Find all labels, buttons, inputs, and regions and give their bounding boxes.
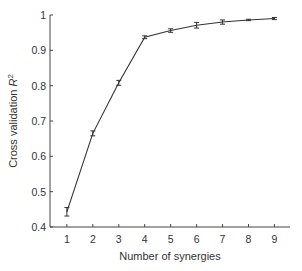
line-chart-plot: 0.40.50.60.70.80.91123456789 Number of s…	[0, 0, 302, 271]
y-tick-label: 0.4	[31, 221, 46, 233]
x-tick-label: 4	[142, 233, 148, 245]
x-tick-label: 8	[246, 233, 252, 245]
x-tick-label: 3	[116, 233, 122, 245]
error-bar	[116, 80, 121, 85]
x-tick-label: 9	[272, 233, 278, 245]
axes: 0.40.50.60.70.80.91123456789	[31, 9, 290, 245]
x-axis-label: Number of synergies	[119, 250, 221, 262]
data-series	[64, 17, 277, 216]
x-tick-label: 5	[168, 233, 174, 245]
y-tick-label: 0.8	[31, 80, 46, 92]
x-tick-label: 7	[220, 233, 226, 245]
chart: 0.40.50.60.70.80.91123456789 Number of s…	[0, 0, 302, 271]
x-tick-label: 6	[194, 233, 200, 245]
y-tick-label: 1	[40, 9, 46, 21]
y-tick-label: 0.7	[31, 115, 46, 127]
y-tick-label: 0.5	[31, 186, 46, 198]
y-tick-label: 0.6	[31, 150, 46, 162]
error-bar	[64, 208, 69, 216]
y-axis-label: Cross validation R2	[6, 74, 19, 168]
error-bar	[90, 131, 95, 136]
y-axis-label-text: Cross validation	[7, 87, 19, 168]
y-axis-label-superscript: 2	[6, 74, 15, 79]
series-line	[67, 19, 275, 212]
x-tick-label: 2	[90, 233, 96, 245]
y-tick-label: 0.9	[31, 44, 46, 56]
y-axis-label-symbol: R	[7, 79, 19, 87]
x-tick-label: 1	[64, 233, 70, 245]
